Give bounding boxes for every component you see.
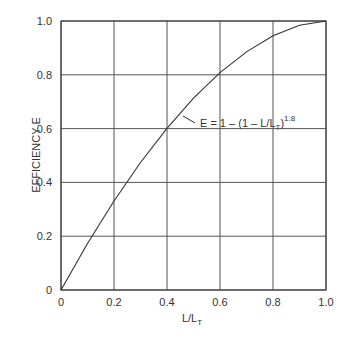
efficiency-chart: 00.20.40.60.81.0 00.20.40.60.81.0 EFFICI… <box>0 0 349 342</box>
x-axis-label: L/LT <box>182 312 202 327</box>
y-tick-label: 0.2 <box>37 230 52 242</box>
x-tick-label: 0.4 <box>159 296 174 308</box>
x-tick-label: 0 <box>58 296 64 308</box>
efficiency-curve <box>61 21 326 290</box>
y-tick-label: 1.0 <box>37 15 52 27</box>
y-tick-label: 0.8 <box>37 69 52 81</box>
y-axis-label: EFFICIENCY E <box>30 117 42 193</box>
annotation-arrow <box>183 116 195 123</box>
grid-lines <box>61 21 326 290</box>
x-tick-label: 0.2 <box>106 296 121 308</box>
plot-frame <box>61 21 326 290</box>
y-tick-label: 0 <box>46 284 52 296</box>
equation-annotation: E = 1 – (1 – L/LT)1.8 <box>200 114 296 132</box>
x-tick-label: 0.8 <box>265 296 280 308</box>
x-tick-label: 0.6 <box>212 296 227 308</box>
x-tick-label: 1.0 <box>318 296 333 308</box>
x-axis-ticks: 00.20.40.60.81.0 <box>58 296 334 308</box>
